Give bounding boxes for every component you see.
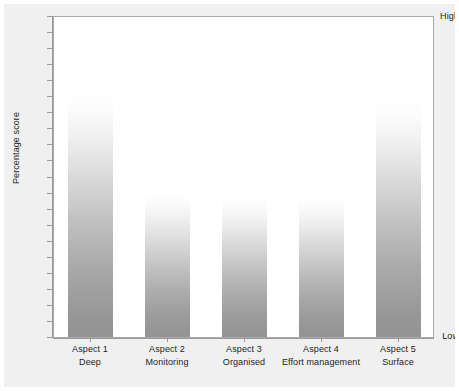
x-axis-label-sublabel: Surface	[356, 356, 440, 369]
x-axis-label-1: Aspect 1Deep	[48, 343, 132, 369]
y-axis-tick	[47, 64, 52, 65]
x-axis-label-3: Aspect 3Organised	[202, 343, 286, 369]
x-axis-label-4: Aspect 4Effort management	[279, 343, 363, 369]
y-axis-line	[52, 16, 53, 338]
bar-3	[222, 196, 267, 337]
y-axis-tick	[47, 225, 52, 226]
y-axis-tick	[47, 289, 52, 290]
y-axis-tick	[47, 241, 52, 242]
y-axis-high-label: High	[413, 11, 459, 21]
y-axis-tick	[47, 273, 52, 274]
y-axis-tick	[47, 193, 52, 194]
y-axis-tick	[47, 80, 52, 81]
x-axis-tick	[90, 338, 91, 342]
y-axis-tick	[47, 48, 52, 49]
bar-4	[299, 196, 344, 337]
x-axis-label-category: Aspect 5	[356, 343, 440, 356]
y-axis-tick	[47, 32, 52, 33]
bar-1	[68, 94, 113, 337]
x-axis-label-5: Aspect 5Surface	[356, 343, 440, 369]
x-axis-label-sublabel: Monitoring	[125, 356, 209, 369]
x-axis-label-sublabel: Deep	[48, 356, 132, 369]
y-axis-tick	[47, 209, 52, 210]
x-axis-label-category: Aspect 4	[279, 343, 363, 356]
x-axis-label-category: Aspect 2	[125, 343, 209, 356]
plot-area	[53, 16, 434, 338]
x-axis-label-sublabel: Effort management	[279, 356, 363, 369]
y-axis-tick	[47, 128, 52, 129]
bar-5	[376, 100, 421, 337]
x-axis-tick	[398, 338, 399, 342]
y-axis-tick	[47, 337, 52, 338]
y-axis-tick	[47, 112, 52, 113]
x-axis-tick	[321, 338, 322, 342]
x-axis-tick	[167, 338, 168, 342]
y-axis-tick	[47, 160, 52, 161]
y-axis-title: Percentage score	[11, 88, 21, 208]
x-axis-label-2: Aspect 2Monitoring	[125, 343, 209, 369]
y-axis-tick	[47, 96, 52, 97]
y-axis-low-label: Low	[413, 331, 459, 341]
y-axis-tick	[47, 257, 52, 258]
y-axis-tick	[47, 144, 52, 145]
x-axis-label-sublabel: Organised	[202, 356, 286, 369]
y-axis-tick	[47, 305, 52, 306]
x-axis-tick	[244, 338, 245, 342]
x-axis-label-category: Aspect 1	[48, 343, 132, 356]
y-axis-tick	[47, 16, 52, 17]
y-axis-tick	[47, 177, 52, 178]
bar-chart-figure: High Low Percentage score Aspect 1DeepAs…	[0, 0, 459, 391]
y-axis-tick	[47, 321, 52, 322]
bar-2	[145, 193, 190, 337]
x-axis-label-category: Aspect 3	[202, 343, 286, 356]
